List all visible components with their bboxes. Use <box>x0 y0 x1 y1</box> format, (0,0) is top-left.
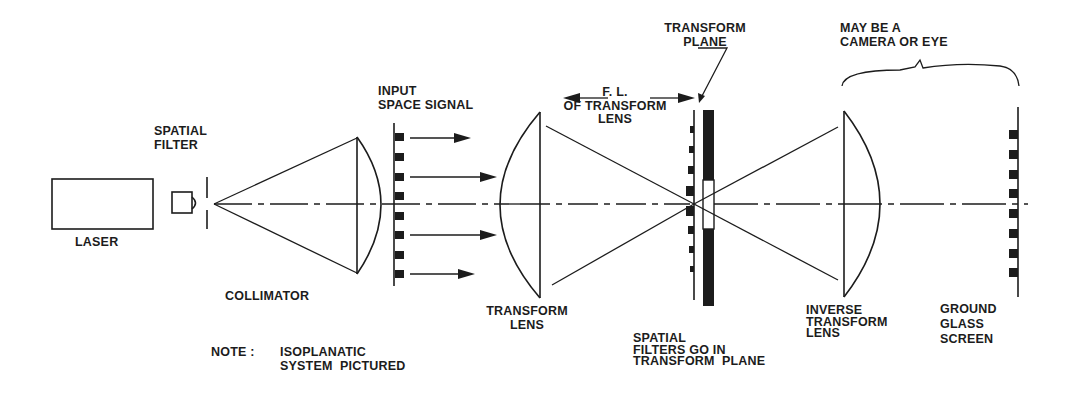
input-signal-label: INPUT SPACE SIGNAL <box>378 85 473 112</box>
collimated-rays <box>410 133 497 279</box>
transform-lens <box>500 112 540 298</box>
transform-plane-label: TRANSFORM PLANE <box>630 22 780 49</box>
spatial-filter-label-line1: SPATIAL <box>154 124 207 138</box>
transform-plane-pointer <box>698 48 727 103</box>
ground-glass-screen-label: GROUND GLASS SCREEN <box>940 302 997 347</box>
focal-length-label: F. L. OF TRANSFORM LENS <box>550 86 680 127</box>
note-line1: ISOPLANATIC <box>280 345 366 359</box>
transform-lens-label: TRANSFORM LENS <box>472 305 582 332</box>
spatial-filter-label: SPATIAL FILTER <box>154 125 207 152</box>
focal-length-label-line2: OF TRANSFORM <box>563 99 666 113</box>
laser-box <box>52 179 153 229</box>
input-signal-label-line1: INPUT <box>378 84 417 98</box>
focal-length-label-line1: F. L. <box>602 85 627 99</box>
focal-length-label-line3: LENS <box>598 112 632 126</box>
converging-rays <box>546 126 694 285</box>
camera-or-eye-line2: CAMERA OR EYE <box>840 35 948 49</box>
camera-or-eye-label: MAY BE A CAMERA OR EYE <box>840 22 948 49</box>
ground-glass-line2: GLASS <box>940 317 984 331</box>
collimator-lens <box>357 137 381 274</box>
spatial-filter-label-line2: FILTER <box>154 138 198 152</box>
note-line2: SYSTEM PICTURED <box>280 359 405 373</box>
note-text: ISOPLANATIC SYSTEM PICTURED <box>280 346 405 373</box>
input-signal-label-line2: SPACE SIGNAL <box>378 98 473 112</box>
transform-plane-label-line2: PLANE <box>683 35 726 49</box>
camera-brace <box>842 60 1019 86</box>
transform-lens-label-line2: LENS <box>510 318 544 332</box>
diverging-beam <box>214 138 357 273</box>
inverse-lens-label-line3: LENS <box>806 326 840 340</box>
camera-or-eye-line1: MAY BE A <box>840 21 901 35</box>
ground-glass-line3: SCREEN <box>940 332 993 346</box>
optical-system-diagram <box>0 0 1067 395</box>
spatial-filter-stop <box>703 110 714 306</box>
transform-lens-label-line1: TRANSFORM <box>486 304 568 318</box>
note-prefix: NOTE : <box>211 346 255 360</box>
collimator-label: COLLIMATOR <box>225 290 309 304</box>
spatial-filter-icon <box>172 177 207 229</box>
ground-glass-screen <box>1009 107 1018 297</box>
spatial-filters-note-label: SPATIAL FILTERS GO IN TRANSFORM PLANE <box>633 333 765 368</box>
laser-label: LASER <box>75 236 118 250</box>
transform-plane-label-line1: TRANSFORM <box>664 21 746 35</box>
ground-glass-line1: GROUND <box>940 302 997 316</box>
spatial-filters-note-line3: TRANSFORM PLANE <box>633 354 765 368</box>
inverse-transform-lens-label: INVERSE TRANSFORM LENS <box>806 305 888 340</box>
